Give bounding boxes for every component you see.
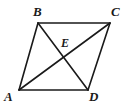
diagonal-ac xyxy=(19,23,110,90)
vertex-label-b: B xyxy=(33,5,42,18)
vertex-label-a: A xyxy=(4,90,13,103)
diagonal-bd xyxy=(38,23,88,90)
vertex-label-d: D xyxy=(89,90,98,103)
diagonals xyxy=(19,23,110,90)
geometry-figure: B C E A D xyxy=(0,0,131,105)
vertex-label-c: C xyxy=(111,5,120,18)
vertex-label-e: E xyxy=(61,37,69,50)
segment-ab xyxy=(19,23,38,90)
segment-cd xyxy=(88,23,110,90)
